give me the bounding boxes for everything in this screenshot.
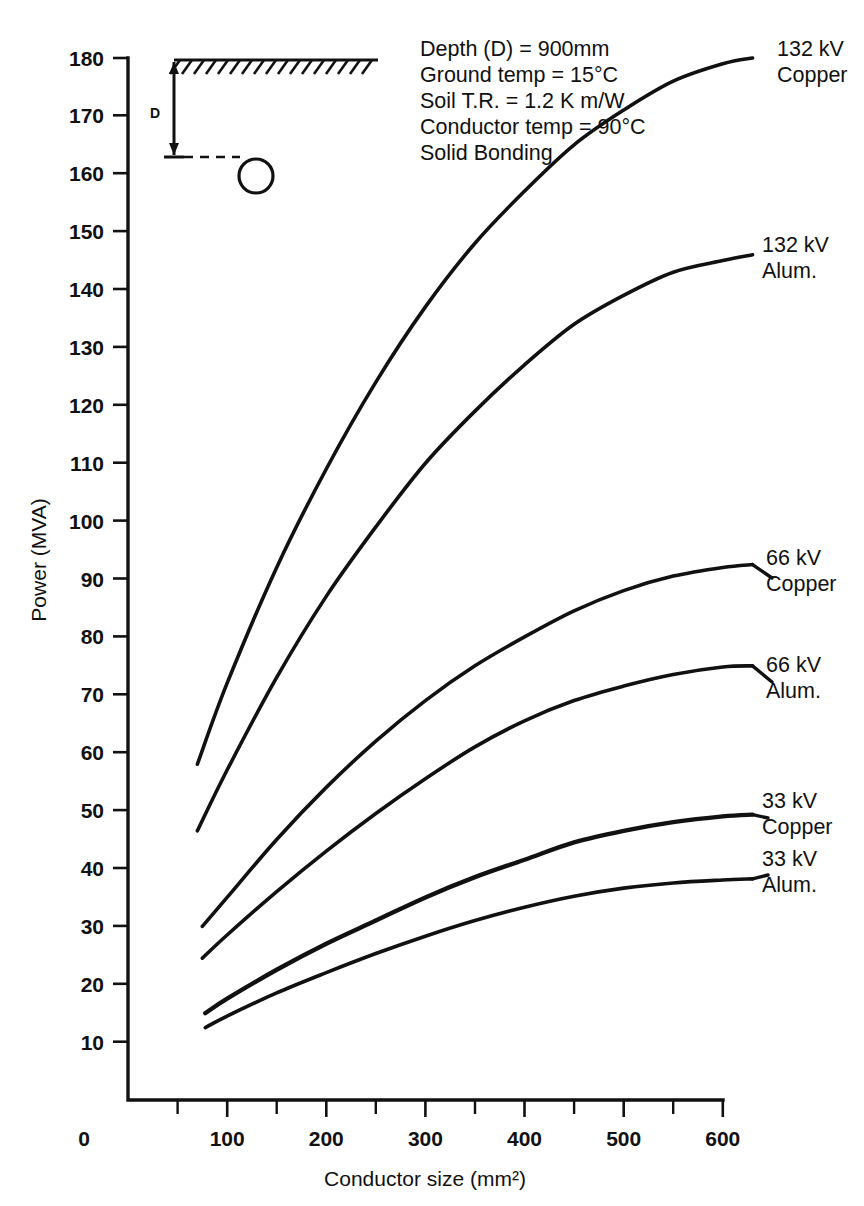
y-tick-label: 130 [69,336,104,359]
chart-canvas: 180 170 160 150 140 130 120 110 100 90 8… [0,0,864,1206]
annotation-line: Solid Bonding [420,141,553,165]
series-label-132kv-copper-line2: Copper [777,63,848,87]
y-tick-label: 30 [81,915,104,938]
y-axis-ticks [113,58,128,1042]
y-tick-label: 120 [69,394,104,417]
y-tick-label: 160 [69,162,104,185]
annotation-line: Conductor temp = 90°C [420,115,646,139]
series-label-66kv-alum-line2: Alum. [766,679,821,703]
series-label-33kv-copper-line2: Copper [762,815,833,839]
y-tick-label: 80 [81,625,104,648]
x-tick-label: 200 [309,1127,344,1150]
series-label-33kv-copper-line1: 33 kV [762,789,818,813]
inset-cable-diagram: D [150,60,378,193]
series-label-132kv-alum-line1: 132 kV [762,233,830,257]
x-tick-label: 100 [210,1127,245,1150]
x-tick-label: 500 [606,1127,641,1150]
y-tick-label: 50 [81,799,104,822]
depth-arrow-down [169,143,179,155]
y-tick-label: 40 [81,857,104,880]
y-tick-label: 60 [81,741,104,764]
y-tick-label: 10 [81,1031,104,1054]
x-axis-ticks [178,1100,723,1117]
y-axis-title: Power (MVA) [27,498,50,621]
y-tick-label: 150 [69,220,104,243]
curve-66kv-alum [202,666,752,958]
series-label-66kv-alum-line1: 66 kV [766,653,822,677]
annotation-line: Soil T.R. = 1.2 K m/W [420,89,625,113]
annotation-line: Depth (D) = 900mm [420,37,609,61]
x-tick-label: 300 [408,1127,443,1150]
x-tick-label: 400 [507,1127,542,1150]
annotation-line: Ground temp = 15°C [420,63,618,87]
cable-circle [239,159,273,193]
x-tick-label: 600 [705,1127,740,1150]
y-tick-label: 140 [69,278,104,301]
y-tick-label: 170 [69,104,104,127]
y-tick-label: 20 [81,973,104,996]
series-label-132kv-copper-line1: 132 kV [777,37,845,61]
x-tick-label: 0 [78,1127,90,1150]
y-tick-label: 70 [81,683,104,706]
ground-hatch-marks [170,60,372,74]
y-tick-label: 100 [69,510,104,533]
series-label-132kv-alum-line2: Alum. [762,259,817,283]
y-tick-label: 90 [81,568,104,591]
series-labels: 132 kV Copper 132 kV Alum. 66 kV Copper … [762,37,848,897]
y-tick-label: 180 [69,47,104,70]
x-axis-tick-labels: 0 100 200 300 400 500 600 [78,1127,740,1150]
curve-132kv-alum [197,255,752,831]
chart-figure: 180 170 160 150 140 130 120 110 100 90 8… [0,0,864,1206]
curve-33kv-copper [205,815,752,1014]
depth-label: D [150,105,160,121]
series-curves [197,58,752,1028]
x-axis-title: Conductor size (mm²) [324,1167,526,1190]
curve-33kv-alum [205,879,752,1028]
y-axis-tick-labels: 180 170 160 150 140 130 120 110 100 90 8… [69,47,104,1054]
y-tick-label: 110 [70,452,104,475]
annotation-block: Depth (D) = 900mm Ground temp = 15°C Soi… [420,37,646,165]
series-label-33kv-alum-line2: Alum. [762,873,817,897]
series-label-66kv-copper-line2: Copper [766,572,837,596]
series-label-33kv-alum-line1: 33 kV [762,847,818,871]
series-label-66kv-copper-line1: 66 kV [766,546,822,570]
